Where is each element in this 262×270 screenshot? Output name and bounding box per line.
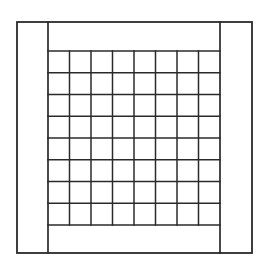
grid-8x8 <box>48 51 220 225</box>
framed-grid-diagram <box>0 0 262 270</box>
